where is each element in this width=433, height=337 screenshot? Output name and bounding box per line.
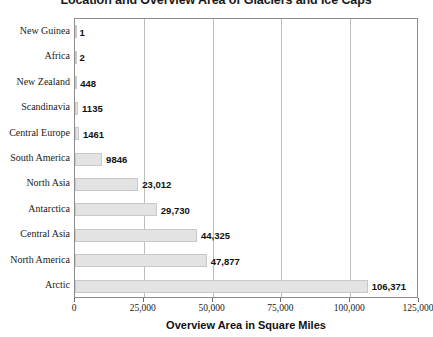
tick-mark	[280, 298, 281, 302]
bar-value-label: 29,730	[161, 204, 190, 215]
bar[interactable]	[75, 229, 197, 242]
bar-value-label: 23,012	[142, 179, 171, 190]
bar-value-label: 448	[80, 77, 96, 88]
bar[interactable]	[75, 102, 78, 115]
category-label: Central Europe	[0, 127, 70, 138]
bar[interactable]	[75, 254, 207, 267]
bar-row[interactable]: 1135	[75, 102, 417, 115]
y-axis-category-labels: New GuineaAfricaNew ZealandScandinaviaCe…	[0, 18, 70, 298]
bar-row[interactable]: 44,325	[75, 229, 417, 242]
bar-row[interactable]: 29,730	[75, 203, 417, 216]
bar-value-label: 1135	[82, 103, 103, 114]
x-axis-tick-marks	[74, 298, 418, 302]
bar[interactable]	[75, 51, 77, 64]
tick-mark	[212, 298, 213, 302]
bar[interactable]	[75, 25, 77, 38]
bar[interactable]	[75, 76, 77, 89]
category-label: North Asia	[0, 177, 70, 188]
bar-row[interactable]: 448	[75, 76, 417, 89]
category-label: Arctic	[0, 279, 70, 290]
tick-label: 75,000	[267, 303, 293, 313]
bar-row[interactable]: 1	[75, 25, 417, 38]
bar-value-label: 44,325	[201, 230, 230, 241]
x-axis-title: Overview Area in Square Miles	[74, 319, 418, 331]
tick-mark	[418, 298, 419, 302]
tick-mark	[143, 298, 144, 302]
bar-row[interactable]: 106,371	[75, 280, 417, 293]
bar-row[interactable]: 9846	[75, 153, 417, 166]
bar-value-label: 9846	[106, 154, 127, 165]
bar[interactable]	[75, 280, 368, 293]
tick-mark	[349, 298, 350, 302]
x-axis-tick-labels: 025,00050,00075,000100,000125,000	[74, 303, 418, 317]
bar-value-label: 1461	[83, 128, 104, 139]
tick-label: 0	[72, 303, 77, 313]
category-label: Africa	[0, 50, 70, 61]
tick-label: 25,000	[130, 303, 156, 313]
category-label: Scandinavia	[0, 101, 70, 112]
bar[interactable]	[75, 127, 79, 140]
bar-value-label: 47,877	[211, 255, 240, 266]
chart-title: Location and Overview Area of Glaciers a…	[0, 0, 432, 7]
category-label: New Guinea	[0, 25, 70, 36]
tick-label: 100,000	[334, 303, 365, 313]
category-label: South America	[0, 152, 70, 163]
bar-row[interactable]: 1461	[75, 127, 417, 140]
bar[interactable]	[75, 203, 157, 216]
bar-row[interactable]: 23,012	[75, 178, 417, 191]
bar-value-label: 2	[80, 52, 85, 63]
bar-row[interactable]: 47,877	[75, 254, 417, 267]
category-label: North America	[0, 254, 70, 265]
bar-value-label: 1	[80, 26, 85, 37]
category-label: New Zealand	[0, 76, 70, 87]
category-label: Antarctica	[0, 203, 70, 214]
bars-layer: 1244811351461984623,01229,73044,32547,87…	[75, 19, 417, 297]
tick-label: 50,000	[199, 303, 225, 313]
bar[interactable]	[75, 153, 102, 166]
bar[interactable]	[75, 178, 138, 191]
plot-area: 1244811351461984623,01229,73044,32547,87…	[74, 18, 418, 298]
bar-row[interactable]: 2	[75, 51, 417, 64]
bar-value-label: 106,371	[372, 281, 406, 292]
tick-label: 125,000	[403, 303, 433, 313]
category-label: Central Asia	[0, 228, 70, 239]
tick-mark	[74, 298, 75, 302]
